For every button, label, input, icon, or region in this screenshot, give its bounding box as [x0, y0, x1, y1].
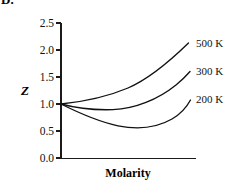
curve-300k — [61, 72, 190, 110]
y-axis-title: Z — [20, 83, 29, 98]
z-vs-molarity-plot: 2.5 2.0 1.5 1.0 0.5 0.0 500 K 300 K 200 … — [0, 0, 233, 183]
y-tick-label-2-0: 2.0 — [40, 44, 55, 56]
y-tick-label-1-0: 1.0 — [40, 98, 55, 110]
y-tick-label-2-5: 2.5 — [40, 17, 55, 29]
series-label-200k: 200 K — [196, 93, 223, 105]
y-tick-label-0-5: 0.5 — [40, 125, 55, 137]
series-label-500k: 500 K — [196, 37, 223, 49]
chart-figure-panel: D. 2.5 2.0 1.5 1.0 0.5 0.0 500 K 300 K — [0, 0, 233, 183]
y-tick-label-0-0: 0.0 — [40, 152, 55, 164]
curve-500k — [61, 43, 189, 104]
curve-200k — [61, 100, 191, 128]
y-tick-label-1-5: 1.5 — [40, 71, 55, 83]
series-label-300k: 300 K — [196, 65, 223, 77]
x-axis-title: Molarity — [105, 166, 150, 180]
